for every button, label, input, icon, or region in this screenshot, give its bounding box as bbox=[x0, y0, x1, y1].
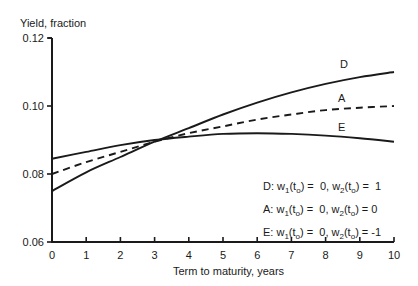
legend-curve-label: A: bbox=[263, 203, 273, 215]
w1-value: 0, bbox=[319, 226, 328, 238]
x-axis-label: Term to maturity, years bbox=[173, 265, 285, 277]
legend-curve-label: D: bbox=[263, 180, 274, 192]
y-tick-label: 0.12 bbox=[23, 32, 44, 44]
x-tick-label: 4 bbox=[186, 249, 192, 261]
legend: D: w1(to) = 0, w2(to) = 1 A: w1(to) = 0,… bbox=[263, 177, 381, 247]
curve-label-e: E bbox=[338, 121, 345, 133]
legend-row-d: D: w1(to) = 0, w2(to) = 1 bbox=[263, 177, 381, 200]
legend-row-e: E: w1(to) = 0, w2(to) = -1 bbox=[263, 223, 381, 246]
x-tick-label: 5 bbox=[220, 249, 226, 261]
y-tick-label: 0.10 bbox=[23, 100, 44, 112]
x-tick-label: 7 bbox=[288, 249, 294, 261]
legend-row-a: A: w1(to) = 0, w2(to) = 0 bbox=[263, 200, 381, 223]
w1-value: 0, bbox=[320, 180, 329, 192]
x-tick-label: 2 bbox=[117, 249, 123, 261]
curve-label-a: A bbox=[338, 92, 346, 104]
x-tick-label: 10 bbox=[388, 249, 400, 261]
w1-value: 0, bbox=[319, 203, 328, 215]
x-tick-label: 6 bbox=[254, 249, 260, 261]
w2-value: 0 bbox=[371, 203, 377, 215]
curve-label-d: D bbox=[340, 58, 348, 70]
x-tick-label: 3 bbox=[152, 249, 158, 261]
x-tick-label: 1 bbox=[83, 249, 89, 261]
x-tick-label: 8 bbox=[323, 249, 329, 261]
y-tick-label: 0.08 bbox=[23, 168, 44, 180]
y-tick-label: 0.06 bbox=[23, 236, 44, 248]
legend-curve-label: E: bbox=[263, 226, 273, 238]
w2-value: 1 bbox=[375, 180, 381, 192]
curve-e bbox=[52, 133, 394, 159]
y-axis-label: Yield, fraction bbox=[20, 17, 86, 29]
x-tick-label: 0 bbox=[49, 249, 55, 261]
x-tick-label: 9 bbox=[357, 249, 363, 261]
w2-value: -1 bbox=[371, 226, 381, 238]
